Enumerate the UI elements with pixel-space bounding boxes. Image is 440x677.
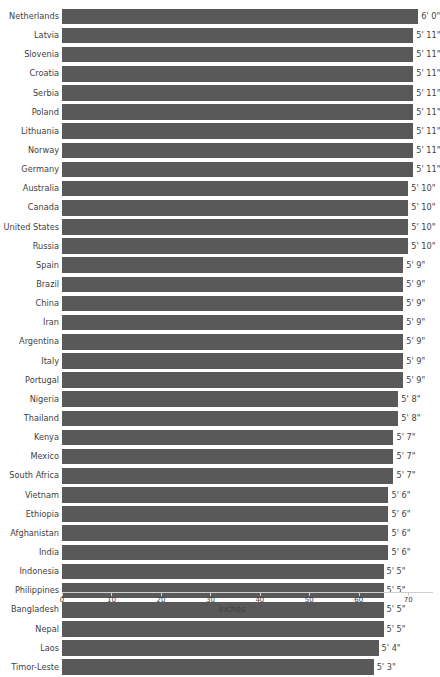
bar-value-label: 5' 11" [413, 122, 440, 141]
category-label: Netherlands [9, 7, 59, 26]
category-label: Kenya [34, 428, 59, 447]
bar-track: 5' 10" [62, 198, 433, 217]
bar-track: 5' 9" [62, 371, 433, 390]
bar-value-label: 5' 9" [403, 332, 425, 351]
bar [62, 449, 393, 465]
bar-value-label: 5' 10" [408, 198, 435, 217]
bar-value-label: 5' 8" [398, 390, 420, 409]
bar-row: China5' 9" [0, 294, 433, 313]
category-label: Nigeria [30, 390, 59, 409]
bar-track: 5' 9" [62, 294, 433, 313]
x-tick-label: 10 [98, 596, 124, 605]
category-label: Canada [28, 198, 59, 217]
x-tick-label: 50 [296, 596, 322, 605]
category-label: Ethiopia [26, 505, 59, 524]
bar-row: Iran5' 9" [0, 313, 433, 332]
category-label: Serbia [33, 84, 59, 103]
bar-value-label: 5' 11" [413, 103, 440, 122]
bar-track: 5' 10" [62, 179, 433, 198]
chart-title [62, 0, 402, 6]
bar-row: Indonesia5' 5" [0, 562, 433, 581]
category-label: Lithuania [21, 122, 59, 141]
category-label: Latvia [34, 26, 59, 45]
x-tick-label: 0 [49, 596, 75, 605]
bar-track: 5' 11" [62, 141, 433, 160]
bar-track: 5' 6" [62, 543, 433, 562]
bar-row: Nigeria5' 8" [0, 390, 433, 409]
bar [62, 296, 403, 312]
bar-value-label: 6' 0" [418, 7, 440, 26]
bar-row: Slovenia5' 11" [0, 45, 433, 64]
bar [62, 315, 403, 331]
bar [62, 238, 408, 254]
bar [62, 28, 413, 44]
bar-track: 5' 11" [62, 64, 433, 83]
bar [62, 430, 393, 446]
plot-area: Netherlands6' 0"Latvia5' 11"Slovenia5' 1… [0, 7, 433, 592]
bar-row: Poland5' 11" [0, 103, 433, 122]
bar-row: India5' 6" [0, 543, 433, 562]
bar-row: Netherlands6' 0" [0, 7, 433, 26]
bar-track: 5' 11" [62, 103, 433, 122]
bar-row: Germany5' 11" [0, 160, 433, 179]
bar [62, 506, 388, 522]
bar-row: Nepal5' 5" [0, 620, 433, 639]
bar-value-label: 5' 10" [408, 179, 435, 198]
bar [62, 353, 403, 369]
bar-row: Canada5' 10" [0, 198, 433, 217]
x-tick-label: 30 [197, 596, 223, 605]
category-label: Spain [36, 256, 59, 275]
bar-value-label: 5' 10" [408, 237, 435, 256]
bar-value-label: 5' 6" [388, 543, 410, 562]
category-label: Germany [21, 160, 59, 179]
bar [62, 621, 384, 637]
bar-value-label: 5' 9" [403, 371, 425, 390]
bar-value-label: 5' 10" [408, 218, 435, 237]
bar [62, 372, 403, 388]
bar-value-label: 5' 9" [403, 352, 425, 371]
category-label: Nepal [35, 620, 59, 639]
bar-track: 5' 10" [62, 218, 433, 237]
bar-track: 5' 6" [62, 505, 433, 524]
bar-value-label: 5' 7" [393, 428, 415, 447]
category-label: India [39, 543, 59, 562]
category-label: Vietnam [25, 486, 59, 505]
category-label: Poland [32, 103, 59, 122]
bar-track: 5' 8" [62, 390, 433, 409]
category-label: Timor-Leste [11, 658, 59, 677]
bar-row: Mexico5' 7" [0, 447, 433, 466]
bar-row: Afghanistan5' 6" [0, 524, 433, 543]
bar-value-label: 5' 9" [403, 313, 425, 332]
bar-track: 6' 0" [62, 7, 433, 26]
bar [62, 66, 413, 82]
bar-row: South Africa5' 7" [0, 466, 433, 485]
bar [62, 487, 388, 503]
bar-row: Timor-Leste5' 3" [0, 658, 433, 677]
bar [62, 162, 413, 178]
bar-track: 5' 9" [62, 352, 433, 371]
bar-row: Thailand5' 8" [0, 409, 433, 428]
bar-row: Serbia5' 11" [0, 84, 433, 103]
bar [62, 277, 403, 293]
bar [62, 564, 384, 580]
category-label: Indonesia [19, 562, 59, 581]
category-label: Slovenia [24, 45, 59, 64]
bar-value-label: 5' 5" [384, 620, 406, 639]
bar [62, 525, 388, 541]
category-label: Croatia [30, 64, 59, 83]
bar-track: 5' 10" [62, 237, 433, 256]
bar-track: 5' 4" [62, 639, 433, 658]
bar [62, 659, 374, 675]
bar-row: United States5' 10" [0, 218, 433, 237]
bar [62, 219, 408, 235]
bar-row: Kenya5' 7" [0, 428, 433, 447]
bar-track: 5' 7" [62, 466, 433, 485]
bar-track: 5' 11" [62, 45, 433, 64]
category-label: United States [4, 218, 59, 237]
category-label: Afghanistan [10, 524, 59, 543]
bar-track: 5' 11" [62, 160, 433, 179]
x-tick-label: 60 [346, 596, 372, 605]
bar-row: Portugal5' 9" [0, 371, 433, 390]
bar-track: 5' 5" [62, 562, 433, 581]
